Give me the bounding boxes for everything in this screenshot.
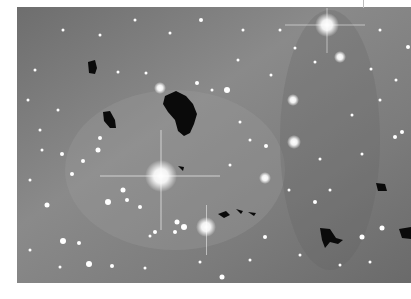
star-field-image xyxy=(17,7,411,283)
frame-edge-line xyxy=(363,0,364,8)
star-field-canvas xyxy=(17,7,411,283)
